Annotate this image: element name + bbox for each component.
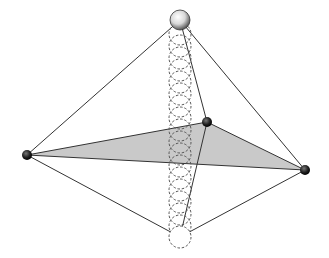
path-circle xyxy=(169,59,191,81)
diagram-canvas xyxy=(0,0,329,258)
edge-top-middle xyxy=(180,20,207,122)
bipyramid-diagram xyxy=(0,0,329,258)
edges xyxy=(27,20,305,237)
path-circle xyxy=(169,95,191,117)
vertex-left xyxy=(22,150,32,160)
vertex-right xyxy=(300,165,310,175)
bottom-dashed-circle xyxy=(169,226,191,248)
path-circle xyxy=(169,71,191,93)
edge-bottom-right xyxy=(180,170,305,237)
path-circle xyxy=(169,191,191,213)
vertex-middle xyxy=(202,117,212,127)
path-circle xyxy=(169,35,191,57)
path-circle xyxy=(169,83,191,105)
path-circle xyxy=(169,179,191,201)
path-circle xyxy=(169,167,191,189)
edge-bottom-left xyxy=(27,155,180,237)
top-sphere xyxy=(170,10,190,30)
